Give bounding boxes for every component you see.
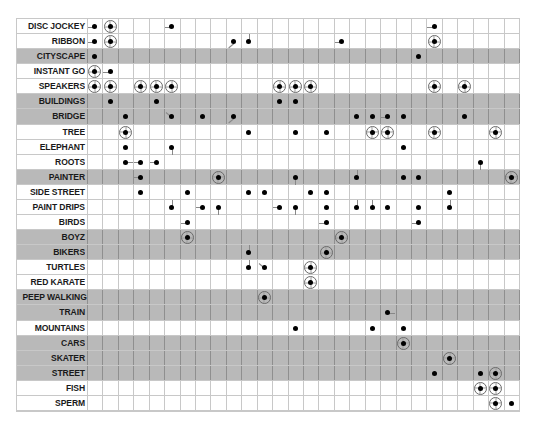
grid-line [210,336,211,350]
grid-line [195,140,196,154]
dot-marker [180,215,195,230]
grid-line [473,64,474,78]
grid-line [164,245,165,259]
dot-icon [123,130,128,135]
grid-line [457,321,458,335]
grid-line [380,321,381,335]
grid-line [519,245,520,259]
grid-line [210,275,211,289]
grid-line [118,290,119,304]
grid-line [303,170,304,184]
grid-line [288,396,289,410]
grid-line [118,19,119,33]
grid-line [195,351,196,365]
grid-line [210,125,211,139]
grid-line [380,155,381,169]
grid-line [365,215,366,229]
dot-icon [108,99,113,104]
dot-marker [396,170,411,185]
dot-icon [370,130,375,135]
grid-line [87,321,88,335]
grid-line [210,230,211,244]
grid-line [226,305,227,319]
grid-line [195,215,196,229]
grid-line [411,381,412,395]
grid-line [257,49,258,63]
grid-line [488,230,489,244]
grid-line [102,260,103,274]
dot-marker [504,396,519,411]
grid-line [210,396,211,410]
chart-row: TRAIN [17,305,519,320]
grid-line [288,19,289,33]
grid-line [396,351,397,365]
grid-line [180,396,181,410]
grid-line [411,336,412,350]
grid-line [349,140,350,154]
grid-line [257,200,258,214]
grid-line [133,94,134,108]
grid-line [149,275,150,289]
row-label: PEEP WALKING [22,290,85,304]
grid-line [442,94,443,108]
grid-line [210,79,211,93]
grid-line [288,140,289,154]
dot-icon [262,265,267,270]
grid-line [210,109,211,123]
grid-line [488,155,489,169]
grid-line [473,290,474,304]
grid-line [164,49,165,63]
dot-icon [416,220,421,225]
dot-icon [246,39,251,44]
grid-line [442,170,443,184]
dot-icon [246,265,251,270]
dot-marker [349,200,364,215]
grid-line [149,49,150,63]
grid-line [210,49,211,63]
grid-line [226,79,227,93]
dot-icon [108,84,113,89]
grid-line [504,381,505,395]
grid-line [488,94,489,108]
grid-line [380,185,381,199]
grid-line [426,109,427,123]
grid-line [504,64,505,78]
grid-line [473,34,474,48]
grid-line [334,321,335,335]
grid-line [288,185,289,199]
grid-line [87,336,88,350]
grid-line [180,155,181,169]
dot-marker [180,185,195,200]
grid-line [426,336,427,350]
grid-line [396,79,397,93]
grid-line [488,49,489,63]
grid-line [349,94,350,108]
grid-line [426,49,427,63]
grid-line [334,336,335,350]
grid-line [195,34,196,48]
grid-line [365,351,366,365]
grid-line [457,351,458,365]
grid-line [365,34,366,48]
grid-line [210,321,211,335]
dot-marker [349,170,364,185]
grid-line [149,34,150,48]
grid-line [118,366,119,380]
grid-line [396,49,397,63]
grid-line [210,305,211,319]
grid-line [365,366,366,380]
grid-line [180,200,181,214]
grid-line [504,34,505,48]
dot-icon [447,190,452,195]
grid-line [241,79,242,93]
grid-line [504,305,505,319]
grid-line [318,109,319,123]
grid-line [272,245,273,259]
grid-line [241,290,242,304]
grid-line [473,109,474,123]
grid-line [210,140,211,154]
grid-line [473,185,474,199]
grid-line [365,305,366,319]
dot-marker [365,321,380,336]
grid-line [380,94,381,108]
